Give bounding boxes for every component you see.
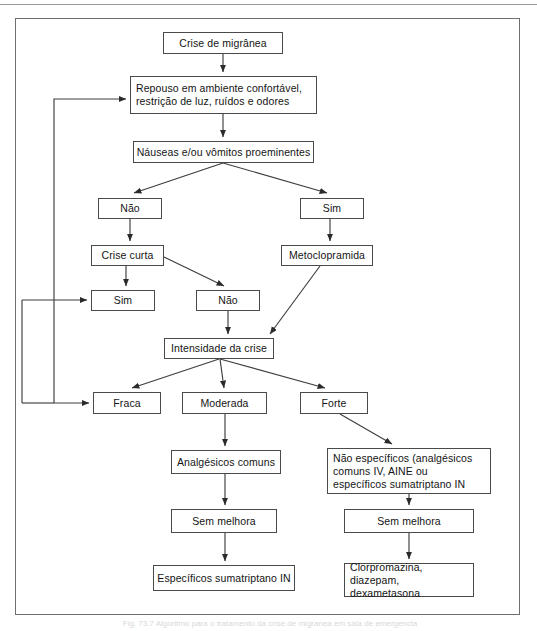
node-label: Não: [218, 294, 238, 307]
node-label: Não: [120, 202, 140, 215]
node-repouso: Repouso em ambiente confortável,restriçã…: [130, 76, 317, 114]
node-crise_curta: Crise curta: [91, 245, 164, 266]
node-label: Sim: [114, 294, 132, 307]
node-label: Clorpromazina, diazepam,dexametasona: [350, 561, 473, 600]
node-sem_melhora1: Sem melhora: [171, 509, 277, 533]
node-analgesicos: Analgésicos comuns: [171, 450, 281, 474]
node-intensidade: Intensidade da crise: [164, 338, 274, 359]
node-label: Crise curta: [102, 249, 154, 262]
node-nao1: Não: [98, 198, 162, 219]
top-divider-rule: [0, 4, 537, 5]
node-forte: Forte: [300, 392, 368, 414]
node-label: Não específicos (analgésicoscomuns IV, A…: [333, 452, 472, 491]
node-label: Sem melhora: [192, 515, 256, 528]
node-moderada: Moderada: [182, 392, 267, 414]
node-clorpro: Clorpromazina, diazepam,dexametasona: [344, 563, 474, 597]
node-label: Náuseas e/ou vômitos proeminentes: [137, 146, 311, 159]
node-nao_espec: Não específicos (analgésicoscomuns IV, A…: [327, 448, 491, 494]
node-label: Sim: [323, 202, 341, 215]
node-nauseas: Náuseas e/ou vômitos proeminentes: [133, 141, 314, 163]
node-espec_final: Específicos sumatriptano IN: [153, 565, 295, 591]
node-label: Moderada: [200, 397, 248, 410]
figure-caption: Fig. 73.7 Algoritmo para o tratamento da…: [60, 619, 480, 628]
node-label: Sem melhora: [377, 515, 441, 528]
node-nao2: Não: [196, 290, 260, 311]
node-label: Metoclopramida: [289, 249, 365, 262]
node-label: Fraca: [113, 397, 140, 410]
node-sim2: Sim: [91, 290, 155, 311]
node-label: Analgésicos comuns: [177, 456, 275, 469]
node-fraca: Fraca: [93, 392, 161, 414]
node-label: Intensidade da crise: [171, 342, 267, 355]
node-label: Forte: [321, 397, 346, 410]
node-label: Repouso em ambiente confortável,restriçã…: [136, 82, 302, 108]
node-metoclo: Metoclopramida: [281, 245, 373, 266]
node-label: Crise de migrânea: [179, 37, 267, 50]
node-sem_melhora2: Sem melhora: [344, 509, 474, 533]
node-label: Específicos sumatriptano IN: [157, 572, 290, 585]
node-crise: Crise de migrânea: [163, 32, 283, 54]
node-sim1: Sim: [300, 198, 364, 219]
figure-page: Crise de migrâneaRepouso em ambiente con…: [0, 0, 537, 631]
